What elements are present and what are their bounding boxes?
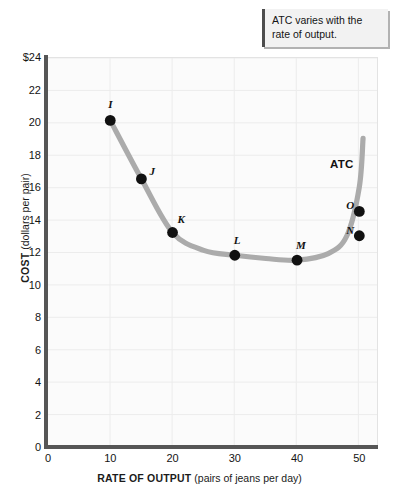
x-axis-line bbox=[44, 445, 378, 449]
x-axis-title: RATE OF OUTPUT (pairs of jeans per day) bbox=[0, 472, 399, 484]
x-tick-label: 20 bbox=[153, 452, 193, 464]
y-axis-title-strong: COST bbox=[19, 253, 31, 283]
x-tick-label: 0 bbox=[28, 452, 68, 464]
point-label-o: O bbox=[346, 199, 354, 211]
y-axis-line bbox=[44, 55, 48, 449]
point-label-k: K bbox=[178, 213, 185, 225]
y-tick-label: 20 bbox=[1, 116, 41, 128]
y-tick-label: 4 bbox=[1, 376, 41, 388]
x-tick-label: 10 bbox=[90, 452, 130, 464]
chart-figure: ATC varies with the rate of output. $242… bbox=[0, 0, 399, 498]
y-tick-label: 6 bbox=[1, 344, 41, 356]
plot-area bbox=[48, 57, 378, 447]
y-axis-title: COST (dollars per pair) bbox=[19, 128, 31, 328]
x-axis-title-strong: RATE OF OUTPUT bbox=[97, 472, 191, 484]
callout-annotation: ATC varies with the rate of output. bbox=[262, 9, 388, 47]
y-axis-title-rest: (dollars per pair) bbox=[19, 173, 31, 252]
x-axis-title-rest: (pairs of jeans per day) bbox=[191, 472, 301, 484]
x-tick-label: 40 bbox=[277, 452, 317, 464]
atc-curve-label: ATC bbox=[330, 158, 354, 170]
x-tick-label: 30 bbox=[215, 452, 255, 464]
gridlines bbox=[48, 58, 377, 447]
x-tick-label: 50 bbox=[339, 452, 379, 464]
point-label-j: J bbox=[149, 165, 155, 177]
y-tick-label: 22 bbox=[1, 84, 41, 96]
callout-text: ATC varies with the rate of output. bbox=[272, 14, 362, 40]
y-tick-label: $24 bbox=[1, 51, 41, 63]
point-label-m: M bbox=[296, 239, 306, 251]
point-label-l: L bbox=[234, 234, 241, 246]
y-tick-label: 2 bbox=[1, 409, 41, 421]
point-label-n: N bbox=[346, 224, 354, 236]
point-label-i: I bbox=[108, 98, 112, 110]
